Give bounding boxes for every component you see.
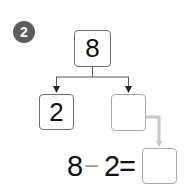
- answer-input-box[interactable]: [142, 148, 177, 184]
- arrow-down-left-icon: [53, 86, 60, 93]
- equation-minus-sign: −: [84, 150, 99, 182]
- known-part-box: 2: [39, 94, 74, 130]
- equation-equals-sign: =: [119, 150, 136, 182]
- equation-operand-a: 8: [67, 150, 83, 182]
- arrow-down-right-icon: [125, 86, 132, 93]
- whole-number-box: 8: [74, 30, 111, 67]
- unknown-part-input-box[interactable]: [111, 94, 146, 131]
- guide-arrow-icon: [156, 141, 163, 147]
- equation-operand-b: 2: [104, 150, 120, 182]
